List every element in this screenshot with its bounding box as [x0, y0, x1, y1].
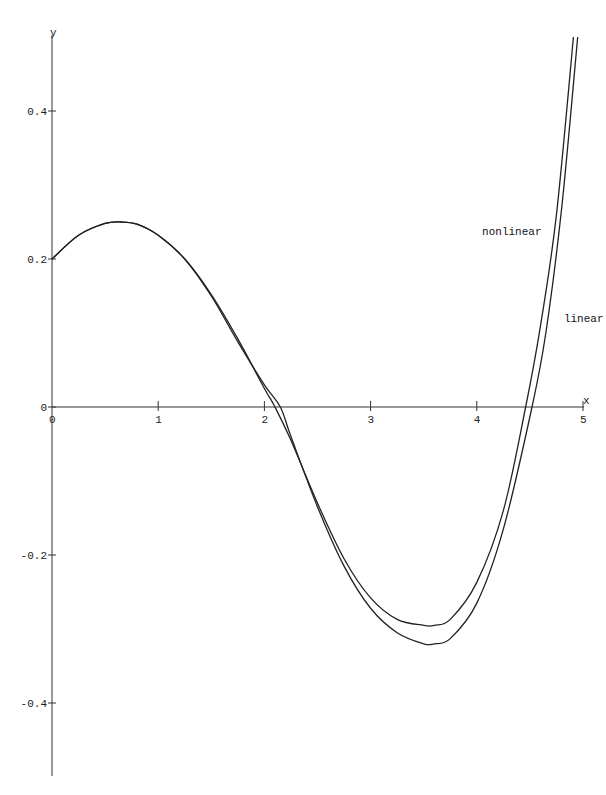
data-curves [52, 37, 578, 645]
x-tick-label: 4 [474, 414, 481, 426]
series-label-nonlinear: nonlinear [482, 226, 541, 238]
line-chart: yx 0123450.40.20-0.2-0.4 nonlinearlinear [0, 0, 606, 795]
y-axis-label: y [50, 27, 57, 39]
series-label-linear: linear [564, 313, 604, 325]
y-tick-label: 0 [40, 402, 47, 414]
x-axis-label: x [583, 395, 590, 407]
curve-linear [52, 37, 578, 645]
x-tick-label: 5 [580, 414, 587, 426]
x-tick-label: 3 [368, 414, 375, 426]
y-tick-label: 0.2 [27, 254, 47, 266]
x-tick-label: 2 [261, 414, 268, 426]
y-tick-label: -0.2 [21, 550, 47, 562]
y-tick-label: -0.4 [21, 698, 48, 710]
tick-marks: 0123450.40.20-0.2-0.4 [21, 106, 587, 710]
y-tick-label: 0.4 [27, 106, 47, 118]
x-tick-label: 0 [49, 414, 56, 426]
x-tick-label: 1 [155, 414, 162, 426]
curve-nonlinear [52, 37, 573, 626]
axes: yx [50, 27, 590, 776]
